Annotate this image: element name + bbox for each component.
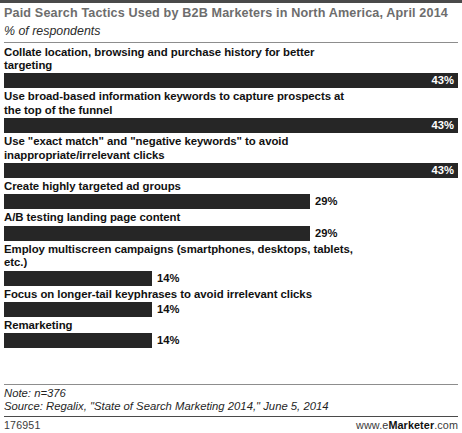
bar-row: 29% [4, 194, 458, 209]
bar-group: Remarketing14% [4, 319, 458, 348]
chart-note: Note: n=376 [4, 387, 458, 401]
bar-fill [4, 271, 152, 286]
bar-category-label: Create highly targeted ad groups [4, 180, 458, 193]
bar-value-label: 29% [315, 226, 337, 241]
bar-fill [4, 163, 458, 178]
chart-title: Paid Search Tactics Used by B2B Marketer… [4, 6, 458, 22]
bar-fill [4, 118, 458, 133]
chart-subtitle: % of respondents [4, 23, 458, 39]
chart-id: 176951 [4, 419, 41, 431]
bar-category-label: Remarketing [4, 319, 458, 332]
bar-group: Collate location, browsing and purchase … [4, 46, 458, 89]
bar-category-label: Use "exact match" and "negative keywords… [4, 135, 458, 162]
bar-value-label: 14% [157, 333, 179, 348]
bar-value-label: 43% [432, 73, 454, 88]
bar-chart-plot: Collate location, browsing and purchase … [4, 46, 458, 349]
footer-top-divider [4, 384, 458, 385]
bar-group: Focus on longer-tail keyphrases to avoid… [4, 288, 458, 317]
brand-suffix: .com [434, 419, 458, 431]
chart-source: Source: Regalix, "State of Search Market… [4, 400, 458, 414]
bar-row: 43% [4, 163, 458, 178]
bar-value-label: 29% [315, 194, 337, 209]
bar-fill [4, 73, 458, 88]
emarketer-brand: www.eMarketer.com [356, 419, 458, 431]
bar-value-label: 14% [157, 302, 179, 317]
brand-name: Marketer [388, 419, 434, 431]
bar-group: Employ multiscreen campaigns (smartphone… [4, 243, 458, 286]
bar-fill [4, 333, 152, 348]
bar-category-label: Employ multiscreen campaigns (smartphone… [4, 243, 458, 270]
bar-category-label: Collate location, browsing and purchase … [4, 46, 458, 73]
bar-fill [4, 302, 152, 317]
bar-category-label: A/B testing landing page content [4, 211, 458, 224]
bar-row: 14% [4, 333, 458, 348]
bar-category-label: Use broad-based information keywords to … [4, 90, 458, 117]
chart-footer: Note: n=376 Source: Regalix, "State of S… [4, 384, 458, 433]
bar-value-label: 43% [432, 163, 454, 178]
brand-prefix: www.e [356, 419, 388, 431]
bar-group: A/B testing landing page content29% [4, 211, 458, 240]
bar-row: 43% [4, 73, 458, 88]
chart-card: Paid Search Tactics Used by B2B Marketer… [0, 0, 462, 433]
bar-row: 14% [4, 302, 458, 317]
bar-group: Use broad-based information keywords to … [4, 90, 458, 133]
bar-fill [4, 194, 310, 209]
bar-row: 14% [4, 271, 458, 286]
bar-fill [4, 226, 310, 241]
bar-group: Create highly targeted ad groups29% [4, 180, 458, 209]
bar-value-label: 43% [432, 118, 454, 133]
header-divider [4, 42, 458, 43]
bar-category-label: Focus on longer-tail keyphrases to avoid… [4, 288, 458, 301]
chart-header: Paid Search Tactics Used by B2B Marketer… [4, 3, 458, 43]
bar-row: 29% [4, 226, 458, 241]
bar-group: Use "exact match" and "negative keywords… [4, 135, 458, 178]
footer-bottom-row: 176951 www.eMarketer.com [4, 417, 458, 433]
bar-row: 43% [4, 118, 458, 133]
bar-value-label: 14% [157, 271, 179, 286]
